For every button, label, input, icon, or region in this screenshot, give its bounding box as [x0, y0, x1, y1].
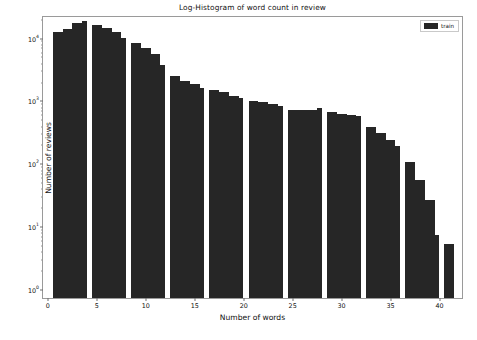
- y-tick-mark: [40, 38, 43, 39]
- bar: [219, 92, 229, 298]
- y-minor-tick: [41, 52, 43, 53]
- chart-title: Log-Histogram of word count in review: [42, 3, 463, 12]
- bar: [131, 43, 141, 298]
- bar: [435, 235, 440, 298]
- bar: [366, 127, 376, 298]
- bar: [298, 110, 308, 298]
- y-minor-tick: [41, 178, 43, 179]
- y-minor-tick: [41, 63, 43, 64]
- y-minor-tick: [41, 104, 43, 105]
- y-minor-tick: [41, 44, 43, 45]
- bar: [72, 23, 82, 298]
- x-tick-label: 35: [386, 302, 394, 310]
- y-tick-mark: [40, 290, 43, 291]
- x-tick-label: 0: [46, 302, 50, 310]
- y-minor-tick: [41, 237, 43, 238]
- y-minor-tick: [41, 260, 43, 261]
- bar: [239, 98, 244, 298]
- y-minor-tick: [41, 241, 43, 242]
- bar: [415, 180, 425, 298]
- y-minor-tick: [41, 126, 43, 127]
- bar: [151, 54, 161, 298]
- y-minor-tick: [41, 41, 43, 42]
- x-tick-label: 25: [289, 302, 297, 310]
- y-minor-tick: [41, 208, 43, 209]
- bar: [425, 200, 435, 298]
- y-tick-label: 100: [28, 286, 39, 295]
- figure: Log-Histogram of word count in review Nu…: [0, 0, 477, 340]
- bar: [386, 140, 396, 298]
- x-tick-mark: [292, 298, 293, 301]
- y-minor-tick: [41, 174, 43, 175]
- bar: [102, 28, 112, 298]
- bar: [209, 90, 219, 298]
- bar: [53, 32, 63, 298]
- y-minor-tick: [41, 111, 43, 112]
- x-tick-label: 30: [338, 302, 346, 310]
- y-minor-tick: [41, 57, 43, 58]
- plot-area: [43, 17, 462, 298]
- y-tick-label: 101: [28, 223, 39, 232]
- y-tick-label: 104: [28, 34, 39, 43]
- bar: [444, 244, 454, 298]
- y-minor-tick: [41, 271, 43, 272]
- x-tick-label: 15: [191, 302, 199, 310]
- y-minor-tick: [41, 233, 43, 234]
- x-axis-label: Number of words: [43, 313, 462, 322]
- y-minor-tick: [41, 197, 43, 198]
- x-tick-label: 20: [240, 302, 248, 310]
- y-tick-label: 102: [28, 160, 39, 169]
- y-minor-tick: [41, 120, 43, 121]
- y-minor-tick: [41, 19, 43, 20]
- x-tick-mark: [341, 298, 342, 301]
- legend-label-train: train: [441, 23, 454, 29]
- y-minor-tick: [41, 167, 43, 168]
- bar: [356, 116, 361, 298]
- y-minor-tick: [41, 252, 43, 253]
- x-tick-mark: [96, 298, 97, 301]
- bar: [229, 96, 239, 298]
- y-minor-tick: [41, 48, 43, 49]
- bar: [268, 104, 278, 298]
- bar: [405, 162, 415, 298]
- y-minor-tick: [41, 246, 43, 247]
- bar: [278, 106, 283, 298]
- bar: [347, 115, 357, 298]
- x-tick-mark: [145, 298, 146, 301]
- y-minor-tick: [41, 145, 43, 146]
- bar: [317, 108, 322, 298]
- bar: [63, 29, 73, 298]
- y-minor-tick: [41, 189, 43, 190]
- x-tick-label: 40: [435, 302, 443, 310]
- legend-swatch-train: [424, 23, 438, 29]
- y-minor-tick: [41, 71, 43, 72]
- y-minor-tick: [41, 115, 43, 116]
- y-minor-tick: [41, 107, 43, 108]
- bar-series-train: [43, 17, 462, 298]
- x-tick-mark: [439, 298, 440, 301]
- bar: [92, 25, 102, 298]
- y-minor-tick: [41, 230, 43, 231]
- bar: [180, 81, 190, 298]
- y-minor-tick: [41, 134, 43, 135]
- bar: [112, 32, 122, 298]
- bar: [258, 102, 268, 298]
- x-tick-mark: [194, 298, 195, 301]
- y-axis-label: Number of reviews: [44, 122, 53, 194]
- y-minor-tick: [41, 170, 43, 171]
- plot-axes: Number of reviews 100101102103104 Number…: [42, 16, 463, 299]
- bar: [395, 146, 400, 298]
- bar: [376, 133, 386, 298]
- bar: [160, 65, 165, 298]
- legend: train: [420, 20, 459, 32]
- bar: [249, 101, 259, 298]
- y-minor-tick: [41, 82, 43, 83]
- bar: [121, 38, 126, 298]
- bar: [327, 112, 337, 298]
- y-tick-label: 103: [28, 97, 39, 106]
- bar: [141, 48, 151, 298]
- y-tick-mark: [40, 164, 43, 165]
- x-tick-mark: [243, 298, 244, 301]
- bar: [82, 21, 87, 298]
- y-tick-mark: [40, 227, 43, 228]
